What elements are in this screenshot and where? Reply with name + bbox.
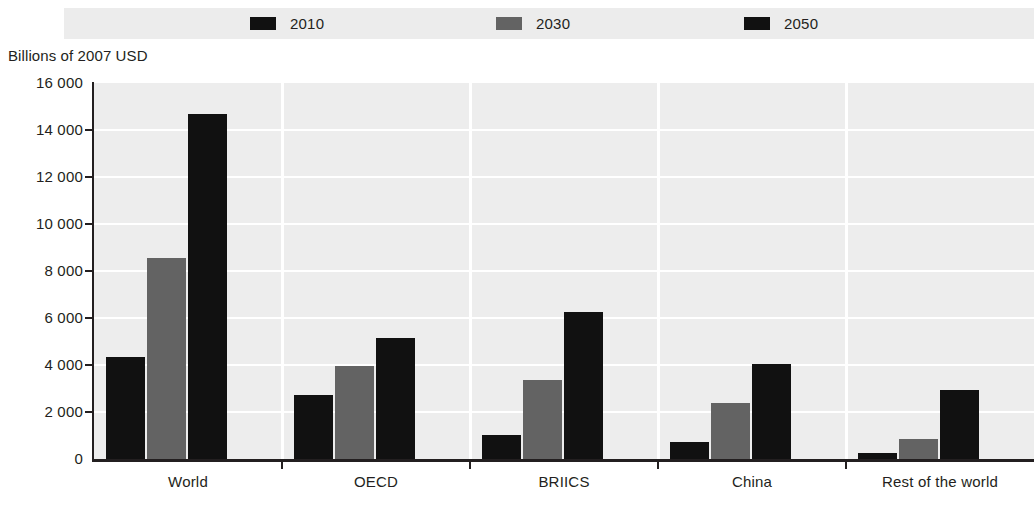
- bar-briics-2030: [523, 380, 562, 459]
- bar-briics-2010: [482, 435, 521, 459]
- group-separator: [469, 83, 472, 459]
- x-axis-line: [92, 459, 1034, 462]
- gridline: [94, 129, 1034, 131]
- y-tick-label: 12 000: [5, 168, 83, 185]
- y-tick-label: 8 000: [5, 262, 83, 279]
- bar-china-2030: [711, 403, 750, 459]
- bar-oecd-2010: [294, 395, 333, 459]
- y-tick-label: 2 000: [5, 403, 83, 420]
- y-tick-mark: [85, 223, 93, 225]
- gridline: [94, 270, 1034, 272]
- bar-world-2030: [147, 258, 186, 459]
- group-separator: [657, 83, 660, 459]
- x-tick-mark: [469, 462, 471, 469]
- y-tick-mark: [85, 364, 93, 366]
- bar-oecd-2050: [376, 338, 415, 459]
- y-tick-label: 10 000: [5, 215, 83, 232]
- y-tick-label: 6 000: [5, 309, 83, 326]
- y-axis-labels: 02 0004 0006 0008 00010 00012 00014 0001…: [0, 0, 83, 509]
- y-tick-label: 16 000: [5, 74, 83, 91]
- y-tick-label: 4 000: [5, 356, 83, 373]
- category-label-briics: BRIICS: [538, 473, 589, 490]
- x-tick-mark: [657, 462, 659, 469]
- y-tick-label: 14 000: [5, 121, 83, 138]
- bar-rest-of-the-world-2030: [899, 439, 938, 459]
- category-label-oecd: OECD: [354, 473, 398, 490]
- category-label-china: China: [732, 473, 772, 490]
- y-tick-mark: [85, 270, 93, 272]
- gridline: [94, 223, 1034, 225]
- bar-world-2010: [106, 357, 145, 459]
- category-label-world: World: [168, 473, 208, 490]
- y-tick-mark: [85, 129, 93, 131]
- x-tick-mark: [845, 462, 847, 469]
- plot-area: [94, 83, 1034, 459]
- y-tick-mark: [85, 176, 93, 178]
- bar-briics-2050: [564, 312, 603, 459]
- bar-rest-of-the-world-2050: [940, 390, 979, 459]
- group-separator: [845, 83, 848, 459]
- bar-china-2010: [670, 442, 709, 459]
- y-tick-mark: [85, 317, 93, 319]
- bar-china-2050: [752, 364, 791, 459]
- y-tick-mark: [85, 411, 93, 413]
- bar-world-2050: [188, 114, 227, 459]
- y-tick-label: 0: [5, 450, 83, 467]
- category-label-rest-of-the-world: Rest of the world: [882, 473, 998, 490]
- bar-chart: 02 0004 0006 0008 00010 00012 00014 0001…: [0, 0, 1034, 509]
- bar-oecd-2030: [335, 366, 374, 459]
- group-separator: [281, 83, 284, 459]
- gridline: [94, 176, 1034, 178]
- x-tick-mark: [281, 462, 283, 469]
